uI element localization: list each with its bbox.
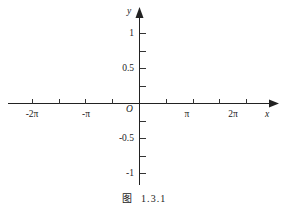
y-axis-label: y bbox=[127, 7, 131, 17]
y-axis-arrow-icon bbox=[136, 7, 144, 18]
x-tick-label-neg-2pi: -2π bbox=[26, 110, 39, 120]
y-tick-label-neg-1: -1 bbox=[114, 169, 134, 179]
figure-container: y x O -2π -π π 2π 1 0.5 -0.5 -1 图1.3.1 bbox=[0, 0, 288, 213]
x-tick-label-pi: π bbox=[185, 110, 190, 120]
origin-label: O bbox=[126, 105, 133, 115]
caption-label: 图 bbox=[122, 193, 132, 204]
figure-caption: 图1.3.1 bbox=[0, 190, 288, 205]
y-tick-label-0point5: 0.5 bbox=[108, 64, 134, 74]
x-tick-label-neg-pi: -π bbox=[82, 110, 90, 120]
y-tick-label-1: 1 bbox=[120, 29, 134, 39]
coordinate-axes bbox=[0, 0, 288, 213]
x-axis-arrow-icon bbox=[269, 100, 279, 108]
x-axis-label: x bbox=[265, 110, 269, 120]
x-tick-label-2pi: 2π bbox=[228, 110, 238, 120]
caption-number: 1.3.1 bbox=[141, 193, 167, 204]
y-tick-label-neg-0point5: -0.5 bbox=[104, 134, 134, 144]
